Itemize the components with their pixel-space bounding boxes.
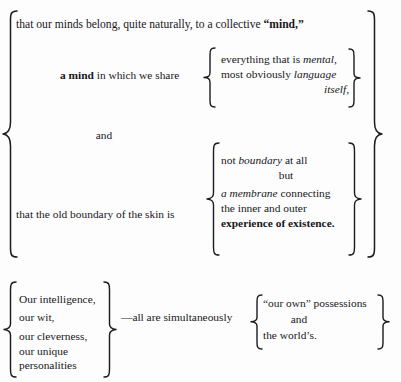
group-two-stem: that the old boundary of the skin is bbox=[16, 207, 175, 222]
conjunction-and: and bbox=[40, 128, 168, 143]
list-item: our cleverness, bbox=[19, 327, 105, 345]
list-item: our wit, bbox=[19, 308, 105, 326]
lower-right-list: “our own” possessions and the world’s. bbox=[263, 295, 379, 344]
group-two-item: not boundary at all bbox=[221, 153, 351, 168]
diagram-canvas: that our minds belong, quite naturally, … bbox=[0, 0, 401, 382]
group-two-item: the inner and outer bbox=[221, 201, 351, 216]
group-two-items: not boundary at all but a membrane conne… bbox=[221, 153, 351, 231]
group-one-right-brace bbox=[348, 48, 361, 108]
group-one-left-brace bbox=[203, 47, 216, 108]
intro-line: that our minds belong, quite naturally, … bbox=[16, 17, 304, 32]
intro-line-emphasis: “mind,” bbox=[263, 18, 303, 31]
group-one-item: most obviously language bbox=[221, 67, 349, 82]
intro-line-text: that our minds belong, quite naturally, … bbox=[16, 18, 263, 31]
group-one-items: everything that is mental, most obviousl… bbox=[221, 52, 349, 97]
list-item: and bbox=[263, 311, 335, 327]
group-one-item: everything that is mental, bbox=[221, 52, 349, 67]
lower-left-list: Our intelligence, our wit, our clevernes… bbox=[19, 290, 105, 373]
group-two-left-brace bbox=[206, 142, 220, 256]
list-item: personalities bbox=[19, 359, 105, 373]
outer-right-brace bbox=[367, 10, 383, 258]
group-one-stem-bold: a mind bbox=[60, 69, 94, 81]
lower-connector: —all are simultaneously bbox=[121, 310, 232, 325]
group-two-item: a membrane connecting bbox=[221, 186, 351, 201]
lower-right-left-brace bbox=[250, 294, 263, 350]
lower-list-right-brace bbox=[103, 281, 117, 378]
lower-list-left-brace bbox=[3, 281, 17, 378]
list-item: Our intelligence, bbox=[19, 290, 105, 308]
group-two-item: experience of existence. bbox=[221, 216, 351, 231]
group-two-item: but bbox=[221, 168, 351, 183]
list-item: “our own” possessions bbox=[263, 295, 379, 311]
group-one-stem-rest: in which we share bbox=[94, 69, 179, 81]
group-one-stem: a mind in which we share bbox=[60, 68, 179, 83]
list-item: the world’s. bbox=[263, 327, 379, 343]
group-one-item: itself, bbox=[221, 82, 349, 97]
list-item: our unique bbox=[19, 345, 105, 359]
